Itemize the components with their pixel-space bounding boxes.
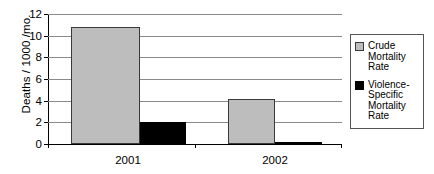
bar-chart-figure: Deaths / 1000 /mo. 12 10 8 6 4 2 0 [0,0,434,174]
legend-swatch-crude-icon [355,42,364,51]
bar-violence-2001[interactable] [140,122,186,144]
legend-entry-violence: Violence- Specific Mortality Rate [355,80,420,122]
y-tick-mark [44,14,48,15]
gridline-12 [48,14,342,15]
x-tick-label-2002: 2002 [245,154,305,166]
x-tick-mark [195,144,196,148]
y-tick-label: 12 [12,9,42,21]
y-tick-mark [44,36,48,37]
x-axis: 2001 2002 [48,144,342,174]
legend-label-violence: Violence- Specific Mortality Rate [368,80,410,122]
x-tick-label-2001: 2001 [98,154,158,166]
x-tick-mark [48,144,49,148]
y-tick-label: 4 [12,96,42,108]
x-tick-mark [341,144,342,148]
legend-swatch-violence-icon [355,81,364,90]
y-axis-tick-labels: 12 10 8 6 4 2 0 [10,14,42,144]
legend-label-crude: Crude Mortality Rate [368,41,406,73]
y-tick-mark [44,57,48,58]
y-tick-label: 2 [12,117,42,129]
legend-entry-crude: Crude Mortality Rate [355,41,420,73]
y-tick-label: 0 [12,139,42,151]
y-tick-label: 10 [12,31,42,43]
y-tick-mark [44,101,48,102]
y-tick-label: 6 [12,74,42,86]
chart-legend: Crude Mortality Rate Violence- Specific … [350,34,424,129]
plot-area [48,14,342,144]
y-tick-mark [44,79,48,80]
y-tick-label: 8 [12,52,42,64]
bar-crude-2001[interactable] [71,27,140,145]
bar-crude-2002[interactable] [228,99,275,145]
y-tick-mark [44,122,48,123]
